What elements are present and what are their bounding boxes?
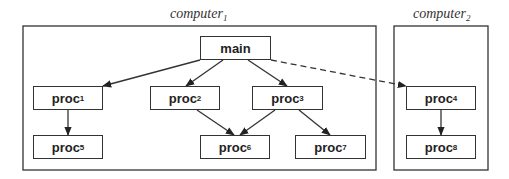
node-label: proc — [271, 91, 299, 106]
node-subscript: 5 — [80, 143, 84, 152]
node-proc4: proc4 — [406, 86, 476, 110]
node-subscript: 4 — [453, 94, 457, 103]
edge-proc3-proc7 — [299, 110, 330, 135]
node-proc8: proc8 — [406, 135, 476, 159]
node-label: proc — [52, 91, 80, 106]
group-label-computer1: computer1 — [170, 6, 227, 23]
process-diagram: computer1 computer2 main proc1 proc2 pro… — [0, 0, 509, 179]
node-subscript: 2 — [197, 94, 201, 103]
node-proc7: proc7 — [295, 135, 366, 159]
node-subscript: 3 — [299, 94, 303, 103]
node-proc6: proc6 — [200, 135, 270, 159]
group-label-subscript: 1 — [223, 13, 228, 23]
edge-proc3-proc6 — [240, 110, 275, 135]
edge-main-proc3 — [248, 60, 287, 86]
node-label: main — [220, 41, 250, 56]
node-proc5: proc5 — [33, 135, 103, 159]
node-label: proc — [425, 140, 453, 155]
node-proc1: proc1 — [33, 86, 103, 110]
group-label-subscript: 2 — [466, 13, 471, 23]
group-label-text: computer — [170, 6, 223, 21]
node-subscript: 1 — [80, 94, 84, 103]
node-main: main — [200, 36, 271, 60]
node-subscript: 7 — [342, 143, 346, 152]
node-label: proc — [52, 140, 80, 155]
node-label: proc — [219, 140, 247, 155]
edge-main-proc1 — [103, 60, 200, 86]
edge-proc2-proc6 — [197, 110, 234, 135]
node-proc3: proc3 — [252, 86, 323, 110]
node-label: proc — [169, 91, 197, 106]
node-label: proc — [425, 91, 453, 106]
edge-main-proc2 — [186, 60, 223, 86]
node-subscript: 8 — [453, 143, 457, 152]
node-proc2: proc2 — [150, 86, 220, 110]
node-label: proc — [314, 140, 342, 155]
node-subscript: 6 — [247, 143, 251, 152]
edge-main-proc4 — [271, 60, 406, 86]
group-label-computer2: computer2 — [413, 6, 470, 23]
group-label-text: computer — [413, 6, 466, 21]
